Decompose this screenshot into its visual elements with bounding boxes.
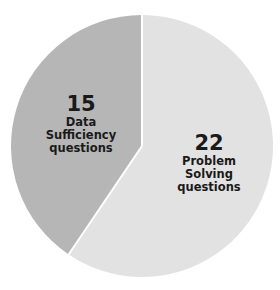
value-data-sufficiency: 15 [46, 92, 116, 116]
label-line: questions [177, 181, 240, 194]
label-line: questions [46, 142, 116, 155]
label-data-sufficiency: 15 Data Sufficiency questions [46, 92, 116, 155]
value-problem-solving: 22 [177, 131, 240, 155]
label-problem-solving: 22 Problem Solving questions [177, 131, 240, 194]
